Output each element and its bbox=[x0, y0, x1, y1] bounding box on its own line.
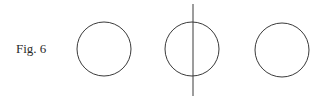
circle-left bbox=[77, 22, 131, 76]
circle-middle bbox=[165, 22, 219, 76]
figure-diagram bbox=[0, 0, 322, 101]
circle-right bbox=[255, 23, 309, 77]
